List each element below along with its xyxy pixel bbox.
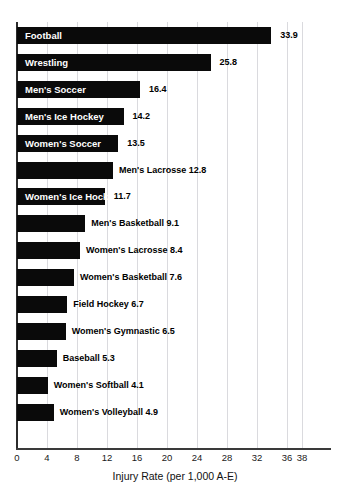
bar-category-value-label: Men's Basketball 9.1 <box>91 215 179 232</box>
x-tick-label: 32 <box>247 452 267 463</box>
bar-value-label: 13.5 <box>127 135 145 152</box>
bar-row: Women's Gymnastic 6.5 <box>17 323 302 340</box>
x-tick-label: 12 <box>97 452 117 463</box>
bar-category-label: Women's Soccer <box>25 135 101 152</box>
x-tick-label: 24 <box>187 452 207 463</box>
bar-value-label: 16.4 <box>149 81 167 98</box>
bar-row: Men's Basketball 9.1 <box>17 215 302 232</box>
bar <box>17 404 54 421</box>
x-axis-title: Injury Rate (per 1,000 A-E) <box>0 470 350 482</box>
bar-category-value-label: Women's Softball 4.1 <box>54 377 144 394</box>
bar-category-label: Wrestling <box>25 54 68 71</box>
bar-category-value-label: Men's Lacrosse 12.8 <box>119 162 206 179</box>
bar-category-value-label: Baseball 5.3 <box>63 350 115 367</box>
bar-row: Field Hockey 6.7 <box>17 296 302 313</box>
bar-row: Women's Volleyball 4.9 <box>17 404 302 421</box>
bar-row: Wrestling25.8 <box>17 54 302 71</box>
x-tick-label: 28 <box>217 452 237 463</box>
bar-value-label: 33.9 <box>280 27 298 44</box>
bar-value-label: 11.7 <box>114 188 131 205</box>
x-tick-label: 0 <box>7 452 27 463</box>
bar-row: Men's Lacrosse 12.8 <box>17 162 302 179</box>
bar <box>17 377 48 394</box>
bar-row: Baseball 5.3 <box>17 350 302 367</box>
bar-category-label: Football <box>25 27 62 44</box>
bar-row: Women's Lacrosse 8.4 <box>17 242 302 259</box>
bar <box>17 296 67 313</box>
bar-category-value-label: Women's Basketball 7.6 <box>80 269 182 286</box>
bar-value-label: 14.2 <box>133 108 151 125</box>
bar-row: Women's Ice Hockey11.7 <box>17 188 302 205</box>
bar-row: Women's Soccer13.5 <box>17 135 302 152</box>
bar-row: Men's Ice Hockey14.2 <box>17 108 302 125</box>
bar <box>17 215 85 232</box>
bar-category-value-label: Women's Lacrosse 8.4 <box>86 242 183 259</box>
bar-category-value-label: Women's Gymnastic 6.5 <box>72 323 175 340</box>
bar-category-value-label: Field Hockey 6.7 <box>73 296 144 313</box>
bar <box>17 269 74 286</box>
bar <box>17 323 66 340</box>
bar-category-label: Men's Ice Hockey <box>25 108 104 125</box>
bar <box>17 242 80 259</box>
bar-category-label: Women's Ice Hockey <box>25 188 119 205</box>
x-tick-label: 16 <box>127 452 147 463</box>
bar-row: Women's Softball 4.1 <box>17 377 302 394</box>
bar-value-label: 25.8 <box>220 54 238 71</box>
chart-title <box>0 0 350 5</box>
bar <box>17 162 113 179</box>
bar <box>17 350 57 367</box>
x-tick-label: 38 <box>292 452 312 463</box>
gridline <box>302 22 303 448</box>
x-tick-label: 8 <box>67 452 87 463</box>
bar-row: Men's Soccer16.4 <box>17 81 302 98</box>
bar-category-value-label: Women's Volleyball 4.9 <box>60 404 158 421</box>
x-tick-label: 20 <box>157 452 177 463</box>
bar-row: Football33.9 <box>17 27 302 44</box>
x-tick-label: 4 <box>37 452 57 463</box>
bar-category-label: Men's Soccer <box>25 81 86 98</box>
x-axis-line <box>16 448 331 450</box>
bar-row: Women's Basketball 7.6 <box>17 269 302 286</box>
injury-rate-bar-chart: Injury Rate (per 1,000 A-E) 048121620242… <box>0 0 350 497</box>
